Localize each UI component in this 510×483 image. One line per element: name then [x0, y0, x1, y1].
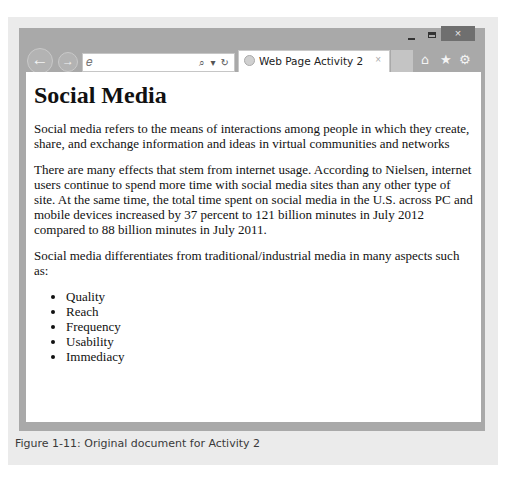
close-button[interactable]: ×	[441, 26, 475, 41]
paragraph-definition: Social media refers to the means of inte…	[34, 121, 473, 151]
back-button[interactable]: ←	[27, 48, 53, 74]
arrow-right-icon: →	[62, 54, 74, 68]
tab-title: Web Page Activity 2	[259, 55, 363, 67]
favicon-icon	[244, 55, 255, 66]
page-heading: Social Media	[34, 82, 473, 109]
browser-window: × ← → 𝑒 ⌕ ▾ ↻ Web Page Activity 2 × ⌂ ★ …	[19, 28, 485, 431]
paragraph-differentiates: Social media differentiates from traditi…	[34, 248, 473, 278]
paragraph-effects: There are many effects that stem from in…	[34, 162, 473, 237]
address-tools[interactable]: ⌕ ▾ ↻	[199, 55, 230, 70]
settings-icon[interactable]: ⚙	[459, 52, 471, 67]
maximize-icon	[428, 32, 436, 38]
aspects-list: Quality Reach Frequency Usability Immedi…	[34, 289, 473, 364]
list-item: Reach	[66, 304, 473, 319]
list-item: Immediacy	[66, 349, 473, 364]
favorites-icon[interactable]: ★	[440, 52, 452, 67]
minimize-button[interactable]	[403, 30, 419, 44]
forward-button[interactable]: →	[58, 52, 78, 72]
figure-caption: Figure 1-11: Original document for Activ…	[15, 437, 260, 450]
address-bar[interactable]: 𝑒 ⌕ ▾ ↻	[82, 53, 235, 72]
list-item: Quality	[66, 289, 473, 304]
list-item: Frequency	[66, 319, 473, 334]
home-icon[interactable]: ⌂	[421, 52, 429, 67]
close-icon: ×	[455, 27, 461, 39]
maximize-button[interactable]	[423, 30, 441, 44]
minimize-icon	[408, 38, 415, 40]
tab-close-icon[interactable]: ×	[375, 54, 381, 65]
list-item: Usability	[66, 334, 473, 349]
tab-web-page-activity-2[interactable]: Web Page Activity 2 ×	[238, 50, 390, 72]
new-tab-button[interactable]	[391, 50, 413, 72]
page-content: Social Media Social media refers to the …	[26, 72, 481, 422]
arrow-left-icon: ←	[32, 50, 49, 69]
page-icon: 𝑒	[86, 55, 98, 69]
